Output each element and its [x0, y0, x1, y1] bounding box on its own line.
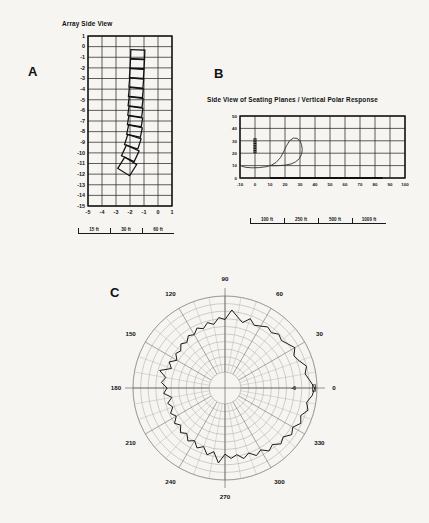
panel-c-polar-plot: 0306090120150180210240270300330-6 — [95, 275, 365, 515]
svg-text:-14: -14 — [77, 192, 85, 198]
svg-text:120: 120 — [165, 290, 176, 297]
svg-text:-3: -3 — [114, 209, 119, 215]
svg-text:-2: -2 — [80, 65, 85, 71]
svg-text:90: 90 — [388, 182, 393, 187]
svg-text:60: 60 — [343, 182, 348, 187]
svg-text:-1: -1 — [80, 54, 85, 60]
svg-text:70: 70 — [358, 182, 363, 187]
svg-text:30: 30 — [298, 182, 303, 187]
svg-text:40: 40 — [232, 126, 237, 131]
scale-label: 30 ft — [118, 227, 134, 232]
svg-text:1: 1 — [171, 209, 174, 215]
svg-text:0: 0 — [332, 384, 336, 391]
svg-text:20: 20 — [283, 182, 288, 187]
svg-text:50: 50 — [328, 182, 333, 187]
scale-label: 60 ft — [150, 227, 166, 232]
svg-text:0: 0 — [157, 209, 160, 215]
svg-text:-2: -2 — [128, 209, 133, 215]
svg-text:150: 150 — [125, 330, 136, 337]
svg-text:-4: -4 — [100, 209, 105, 215]
svg-text:100: 100 — [401, 182, 409, 187]
svg-text:-9: -9 — [80, 139, 85, 145]
scale-label: 100 ft — [259, 217, 275, 222]
svg-text:30: 30 — [316, 330, 323, 337]
panel-b-letter: B — [214, 66, 224, 81]
panel-a-letter: A — [28, 64, 38, 79]
panel-a-title: Array Side View — [62, 20, 112, 27]
panel-b-plot: -10010203040506070809010050403020100 — [222, 112, 412, 192]
svg-text:10: 10 — [268, 182, 273, 187]
svg-text:40: 40 — [313, 182, 318, 187]
svg-text:-12: -12 — [77, 171, 85, 177]
svg-text:0: 0 — [82, 43, 85, 49]
svg-text:0: 0 — [235, 176, 238, 181]
svg-text:-11: -11 — [78, 160, 86, 166]
svg-text:-10: -10 — [237, 182, 244, 187]
svg-text:-6: -6 — [80, 107, 85, 113]
svg-text:60: 60 — [276, 290, 283, 297]
svg-text:180: 180 — [111, 384, 122, 391]
svg-text:-5: -5 — [80, 97, 85, 103]
technical-figure: A Array Side View -5-4-3-2-10110-1-2-3-4… — [0, 0, 429, 523]
svg-text:240: 240 — [165, 478, 176, 485]
svg-text:10: 10 — [232, 163, 237, 168]
svg-text:330: 330 — [314, 439, 325, 446]
svg-text:20: 20 — [232, 151, 237, 156]
svg-text:210: 210 — [125, 439, 136, 446]
svg-text:-10: -10 — [77, 150, 85, 156]
svg-text:-8: -8 — [80, 128, 85, 134]
svg-text:-5: -5 — [86, 209, 91, 215]
svg-text:-15: -15 — [77, 203, 85, 209]
svg-text:-13: -13 — [77, 182, 85, 188]
svg-text:50: 50 — [232, 114, 237, 119]
svg-text:-1: -1 — [142, 209, 147, 215]
svg-text:80: 80 — [373, 182, 378, 187]
scale-label: 500 ft — [327, 217, 343, 222]
svg-text:270: 270 — [220, 493, 231, 500]
scale-label: 1000 ft — [361, 217, 377, 222]
svg-text:-3: -3 — [80, 75, 85, 81]
svg-text:-6: -6 — [291, 385, 296, 391]
svg-text:90: 90 — [222, 275, 229, 282]
scale-label: 250 ft — [293, 217, 309, 222]
panel-b-title: Side View of Seating Planes / Vertical P… — [207, 96, 378, 103]
svg-text:300: 300 — [274, 478, 285, 485]
svg-text:30: 30 — [232, 139, 237, 144]
svg-text:1: 1 — [82, 33, 85, 39]
panel-a-plot: -5-4-3-2-10110-1-2-3-4-5-6-7-8-9-10-11-1… — [66, 32, 186, 212]
scale-label: 15 ft — [86, 227, 102, 232]
svg-text:-4: -4 — [80, 86, 85, 92]
svg-text:0: 0 — [254, 182, 257, 187]
svg-text:-7: -7 — [80, 118, 85, 124]
